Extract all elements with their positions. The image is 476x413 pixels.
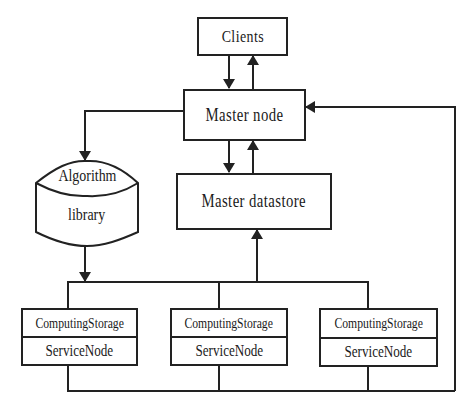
master-node-box: Master node xyxy=(183,89,306,141)
service-node-2: ComputingStorage ServiceNode xyxy=(170,308,288,366)
service-node-3-line2: ServiceNode xyxy=(345,343,413,361)
architecture-diagram: Clients Master node Master datastore Alg… xyxy=(0,0,476,413)
clients-box: Clients xyxy=(197,17,288,56)
master-datastore-box: Master datastore xyxy=(176,173,332,230)
master-datastore-label: Master datastore xyxy=(202,191,307,212)
service-node-3: ComputingStorage ServiceNode xyxy=(319,308,438,367)
service-node-1-line1: ComputingStorage xyxy=(35,315,123,332)
algorithm-library-label-line1: Algorithm xyxy=(36,166,138,186)
master-node-label: Master node xyxy=(206,105,284,126)
service-node-2-line1: ComputingStorage xyxy=(185,315,273,332)
service-node-1-line2: ServiceNode xyxy=(46,342,114,360)
service-node-2-line2: ServiceNode xyxy=(195,342,263,360)
clients-label: Clients xyxy=(221,27,263,47)
service-node-3-line1: ComputingStorage xyxy=(334,315,422,332)
service-node-1: ComputingStorage ServiceNode xyxy=(21,308,138,366)
bottom-bus xyxy=(68,365,455,391)
algorithm-library-label-line2: library xyxy=(36,205,138,225)
arrow-master-to-library xyxy=(85,111,183,160)
